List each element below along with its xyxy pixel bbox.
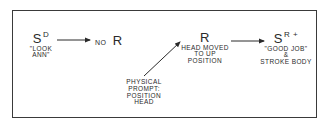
sd-caption-line2: ANN" — [24, 52, 58, 59]
r-symbol: R — [177, 31, 233, 45]
prompt-line4: HEAD — [120, 99, 168, 106]
sd-symbol: SD — [24, 31, 58, 46]
sd-superscript: D — [43, 30, 49, 39]
sr-line3: STROKE BODY — [258, 59, 314, 66]
node-physical-prompt: PHYSICAL PROMPT: POSITION HEAD — [120, 79, 168, 106]
sr-letter: S — [274, 31, 283, 46]
node-discriminative-stimulus: SD "LOOK ANN" — [24, 31, 58, 59]
node-no-response: NO R — [95, 32, 123, 49]
no-r-prefix: NO — [95, 39, 106, 46]
arrow-prompt-to-r — [144, 42, 180, 76]
no-r-symbol: R — [113, 33, 123, 48]
sd-letter: S — [33, 31, 42, 46]
sr-symbol: SR + — [258, 31, 314, 46]
r-line3: POSITION — [177, 58, 233, 65]
sr-superscript: R + — [284, 30, 298, 39]
node-reinforcer: SR + "GOOD JOB" & STROKE BODY — [258, 31, 314, 66]
node-response: R HEAD MOVED TO UP POSITION — [177, 31, 233, 65]
